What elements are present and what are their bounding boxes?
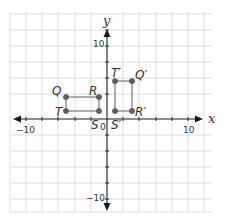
point-S	[96, 108, 101, 113]
grid	[10, 12, 212, 212]
origin-label: 0	[100, 122, 106, 132]
label-Q-prime: Q′	[135, 68, 147, 82]
y-tick-neg10: −10	[86, 193, 105, 203]
rectangle-QRST: Q R S T	[52, 84, 102, 132]
label-T: T	[55, 105, 64, 119]
point-S-prime	[112, 108, 117, 113]
x-axis-right-arrow-icon	[195, 116, 203, 123]
point-Q	[63, 94, 68, 99]
y-axis-label: y	[102, 13, 111, 28]
rectangle-QRST-prime: T′ Q′ R′ S′	[111, 66, 147, 132]
y-axis-down-arrow-icon	[104, 203, 111, 211]
label-S: S	[91, 118, 99, 132]
x-axis-left-arrow-icon	[13, 116, 21, 123]
x-tick-neg10: −10	[16, 125, 35, 135]
label-Q: Q	[52, 84, 61, 98]
label-T-prime: T′	[111, 66, 121, 80]
x-axis-label: x	[208, 111, 216, 126]
y-axis	[104, 29, 111, 211]
coordinate-plane: x y −10 10 10 −10 0 Q R S T T′ Q′ R′ S′	[0, 0, 229, 222]
label-S-prime: S′	[111, 118, 122, 132]
x-tick-10: 10	[183, 125, 195, 135]
point-T	[63, 108, 68, 113]
label-R-prime: R′	[135, 105, 146, 119]
x-axis	[13, 116, 203, 123]
label-R: R	[89, 84, 97, 98]
point-R-prime	[129, 108, 134, 113]
point-Q-prime	[129, 78, 134, 83]
y-tick-10: 10	[93, 39, 105, 49]
